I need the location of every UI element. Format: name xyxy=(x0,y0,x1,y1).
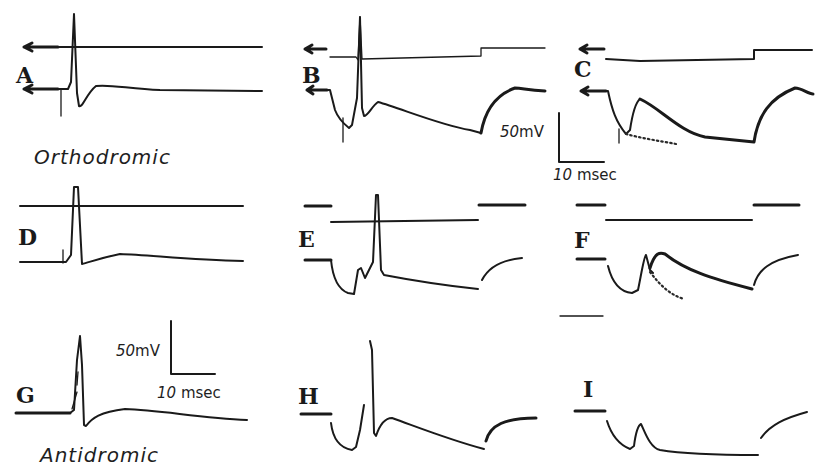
panel-e-traces xyxy=(305,195,525,294)
traces-canvas xyxy=(0,0,821,476)
panel-h-traces xyxy=(301,341,536,450)
arrow-icon xyxy=(307,86,327,94)
panel-i-traces xyxy=(575,411,807,455)
extrapolated-decay xyxy=(626,134,676,144)
arrow-icon xyxy=(305,45,326,53)
arrow-icon xyxy=(581,87,606,95)
arrow-icon xyxy=(24,85,58,93)
electrophysiology-figure: A B C D E F G H I Orthodromic Antidromic… xyxy=(0,0,821,476)
arrow-icon xyxy=(580,45,604,53)
panel-f-traces xyxy=(560,205,799,316)
extrapolated-decay xyxy=(650,272,684,299)
panel-b-traces xyxy=(305,17,545,142)
panel-a-traces xyxy=(24,14,262,116)
panel-c-traces xyxy=(580,45,813,144)
panel-g-traces xyxy=(16,336,247,426)
scale-bar-2 xyxy=(171,321,215,374)
panel-d-traces xyxy=(20,187,243,264)
arrow-icon xyxy=(24,43,58,51)
scale-bar-1 xyxy=(559,113,604,162)
